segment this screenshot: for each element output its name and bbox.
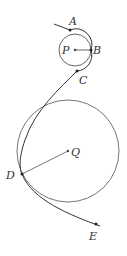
point-q bbox=[67, 150, 69, 152]
label-q: Q bbox=[71, 146, 80, 159]
point-p bbox=[74, 49, 76, 51]
point-e bbox=[95, 223, 98, 226]
label-a: A bbox=[68, 15, 77, 28]
label-p: P bbox=[61, 44, 70, 57]
label-c: C bbox=[79, 74, 88, 87]
label-e: E bbox=[88, 230, 97, 243]
diagram-canvas: A B C D E P Q bbox=[0, 0, 127, 256]
label-b: B bbox=[92, 44, 101, 57]
point-d bbox=[21, 173, 24, 176]
label-d: D bbox=[5, 169, 15, 182]
point-a bbox=[69, 29, 72, 32]
segment-qd bbox=[22, 151, 68, 174]
point-c bbox=[76, 70, 79, 73]
